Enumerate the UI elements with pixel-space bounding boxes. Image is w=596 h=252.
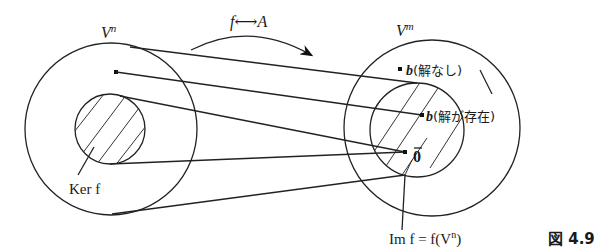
mapping-arrow	[191, 36, 311, 55]
map-line-outer-top	[130, 47, 417, 83]
map-line-kernel-top	[120, 96, 405, 152]
vn-label: Vn	[101, 22, 117, 41]
solution-exists-label: b(解が存在)	[426, 109, 495, 124]
zero-vector-label: 0	[413, 148, 421, 165]
point-zero	[403, 150, 407, 154]
point-b-no-solution	[398, 67, 402, 71]
image-label: Im f = f(Vn)	[389, 229, 461, 248]
kernel-leader-line	[78, 147, 94, 175]
linear-map-diagram: f⟷A Vn Vm Ker f b(解なし) b(解が存在) 0 Im f = …	[0, 0, 596, 252]
vm-label: Vm	[396, 20, 414, 39]
kernel-circle	[75, 94, 145, 164]
vm-label-leader	[480, 70, 492, 94]
domain-circle-vn	[25, 43, 197, 215]
image-leader-inner	[405, 160, 412, 175]
map-line-kernel-bottom	[110, 152, 405, 164]
kernel-hatching	[60, 80, 175, 190]
kernel-label: Ker f	[69, 181, 100, 197]
image-leader-line	[402, 175, 405, 230]
map-line-outer-bottom	[112, 175, 405, 214]
point-b-solution	[420, 113, 424, 117]
figure-label: 図 4.9	[548, 230, 595, 248]
map-correspondence-label: f⟷A	[230, 13, 267, 31]
no-solution-label: b(解なし)	[406, 63, 462, 78]
